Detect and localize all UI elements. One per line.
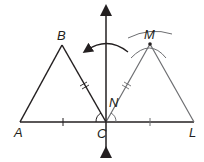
rotation-arrow-icon [87,43,128,52]
label-a: A [13,125,23,140]
segment-ml [150,44,194,122]
segment-cm [106,44,150,122]
label-b: B [57,28,66,43]
label-c: C [97,126,107,141]
label-m: M [144,27,155,42]
segment-ab [20,45,62,122]
label-l: L [189,125,196,140]
rotation-diagram: A B C L M N [0,0,204,162]
point-m-dot [148,42,152,46]
angle-arc-bca [96,113,101,122]
label-n: N [109,95,119,110]
angle-arc-mcl [111,113,116,122]
construction-arc-lower [131,48,166,58]
